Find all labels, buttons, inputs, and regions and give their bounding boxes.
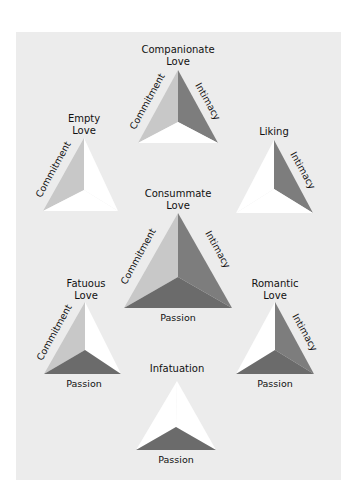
triangle-liking: Liking Intimacy <box>236 126 318 213</box>
triangle-empty-love: Empty Love Commitment <box>33 113 118 211</box>
title-line-1: Fatuous <box>67 278 106 289</box>
title-line-2: Love <box>74 290 98 301</box>
title-line-1: Liking <box>259 126 289 137</box>
title-line-1: Consummate <box>145 188 212 199</box>
triangle-romantic-love: Romantic Love Intimacy Passion <box>236 278 320 389</box>
triangle-companionate-love: Companionate Love Commitment Intimacy <box>127 44 223 143</box>
love-triangle-diagram: Companionate Love Commitment Intimacy Em… <box>0 0 356 494</box>
passion-label: Passion <box>257 378 293 389</box>
title-line-2: Love <box>166 200 190 211</box>
title-line-2: Love <box>263 290 287 301</box>
passion-label: Passion <box>66 378 102 389</box>
title-line-1: Companionate <box>141 44 214 55</box>
title-line-1: Empty <box>68 113 100 124</box>
triangle-infatuation: Infatuation Passion <box>136 363 216 465</box>
title-line-2: Love <box>72 125 96 136</box>
title-line-1: Romantic <box>251 278 298 289</box>
title-line-1: Infatuation <box>150 363 204 374</box>
title-line-2: Love <box>166 56 190 67</box>
intimacy-label: Intimacy <box>203 229 233 271</box>
passion-label: Passion <box>158 454 194 465</box>
triangle-fatuous-love: Fatuous Love Commitment Passion <box>34 278 121 389</box>
passion-label: Passion <box>160 312 196 323</box>
triangle-consummate-love: Consummate Love Commitment Intimacy Pass… <box>118 188 233 323</box>
